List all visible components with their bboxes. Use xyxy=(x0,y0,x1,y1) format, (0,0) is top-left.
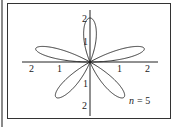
x-tick-label: 1 xyxy=(57,63,62,74)
y-tick-label: 2 xyxy=(82,13,87,24)
y-tick-label: 2 xyxy=(82,100,87,111)
annotation-n: n xyxy=(129,95,134,106)
x-tick-label: 2 xyxy=(145,63,150,74)
x-tick-label: 2 xyxy=(29,63,34,74)
x-tick-label: 1 xyxy=(117,63,122,74)
y-tick-label: 1 xyxy=(83,78,88,89)
annotation-value: = 5 xyxy=(137,95,150,106)
y-tick-label: 1 xyxy=(83,36,88,47)
polar-rose-plot: 2 1 1 2 2 1 1 2 n = 5 xyxy=(0,0,176,127)
